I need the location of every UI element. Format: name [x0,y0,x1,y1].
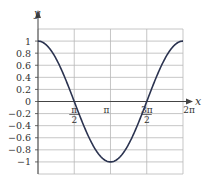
x-axis-label: x [195,95,202,108]
y-tick-label: 0.4 [16,72,31,83]
x-tick-labels: π2π3π22π [69,105,195,125]
cosine-chart: 10.80.60.40.20−0.2−0.4−0.6−0.8−1 π2π3π22… [0,0,211,189]
y-tick-label: 0.6 [16,60,31,71]
x-tick-denominator: 2 [144,115,150,125]
y-tick-label: −1 [17,156,31,167]
x-tick-denominator: 2 [71,115,77,125]
y-tick-label: 1 [25,36,31,47]
x-tick-label: π [104,105,110,115]
plot-area: 10.80.60.40.20−0.2−0.4−0.6−0.8−1 π2π3π22… [0,0,211,189]
y-tick-label: 0.8 [16,48,31,59]
y-tick-label: 0 [25,96,31,107]
y-tick-label: −0.4 [8,120,31,131]
y-tick-labels: 10.80.60.40.20−0.2−0.4−0.6−0.8−1 [8,36,38,168]
y-tick-label: −0.2 [8,108,31,119]
y-axis-label: y [33,7,41,20]
axes [35,10,193,174]
y-tick-label: −0.8 [8,144,31,155]
x-tick-label: 2π [183,105,195,115]
y-tick-label: −0.6 [8,132,31,143]
y-tick-label: 0.2 [16,84,31,95]
